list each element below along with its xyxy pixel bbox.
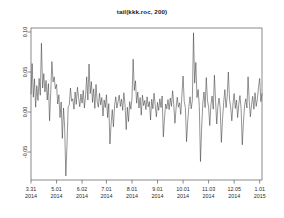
y-axis-tick-label: 0.10 [22,27,28,38]
x-axis-tick-label-date: 11.03 [202,186,215,192]
plot-screenshot: tail(kkk.roc, 200) 0.100.050.00-0.05 3.3… [0,0,284,218]
series-group [31,33,262,176]
x-axis-tick-label-year: 2015 [254,193,266,199]
y-axis-tick-label: -0.05 [22,146,28,158]
x-axis-tick-label-date: 3.31 [26,186,37,192]
x-axis-tick-label-year: 2014 [25,193,37,199]
x-axis-tick-label-year: 2014 [51,193,63,199]
x-axis-tick-label-year: 2014 [203,193,215,199]
y-axis-tick-label: 0.00 [22,107,28,118]
line-chart: 0.100.050.00-0.05 3.3120145.0120146.0220… [0,0,284,218]
x-axis-tick-label-date: 12.05 [227,186,241,192]
x-axis-tick-label-date: 7.01 [101,186,112,192]
y-axis-ticks [28,32,32,152]
x-axis-tick-label-year: 2014 [76,193,88,199]
x-axis-tick-label-year: 2014 [228,193,240,199]
y-axis-labels: 0.100.050.00-0.05 [22,27,28,158]
x-axis-ticks [31,180,260,184]
x-axis-tick-label-year: 2014 [152,193,164,199]
x-axis-tick-label-date: 9.01 [152,186,163,192]
x-axis-tick-label-year: 2014 [177,193,189,199]
y-axis-tick-label: 0.05 [22,67,28,78]
x-axis-tick-label-date: 1.01 [254,186,265,192]
x-axis-tick-label-date: 10.01 [176,186,190,192]
x-axis-tick-label-date: 5.01 [51,186,62,192]
x-axis-labels: 3.3120145.0120146.0220147.0120148.012014… [25,186,266,199]
x-axis-tick-label-year: 2014 [100,193,112,199]
data-series-line [31,33,262,176]
x-axis-tick-label-date: 6.02 [77,186,88,192]
x-axis-tick-label-date: 8.01 [127,186,138,192]
x-axis-tick-label-year: 2014 [126,193,138,199]
